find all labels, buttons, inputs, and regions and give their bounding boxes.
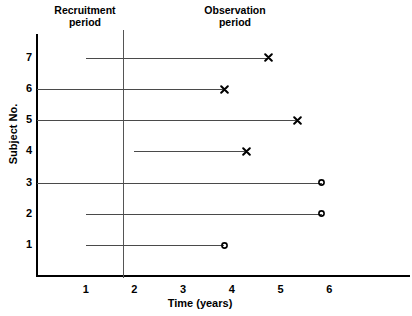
survival-timeline-chart: Recruitment period Observation period 12…	[0, 0, 412, 316]
subject-line-1	[86, 245, 225, 246]
subject-4-event-marker-x	[242, 147, 251, 156]
subject-series-group	[0, 0, 412, 316]
subject-line-6	[37, 89, 224, 90]
subject-5-event-marker-x	[293, 116, 302, 125]
subject-line-2	[86, 214, 322, 215]
subject-2-censored-marker-o	[317, 209, 326, 218]
subject-6-event-marker-x	[220, 85, 229, 94]
subject-line-4	[134, 151, 246, 152]
subject-line-7	[86, 58, 269, 59]
subject-3-censored-marker-o	[317, 178, 326, 187]
subject-line-3	[37, 183, 322, 184]
x-axis-title: Time (years)	[110, 297, 290, 309]
subject-1-censored-marker-o	[220, 241, 229, 250]
y-axis-title: Subject No.	[7, 94, 19, 174]
subject-line-5	[37, 120, 298, 121]
subject-7-event-marker-x	[264, 53, 273, 62]
